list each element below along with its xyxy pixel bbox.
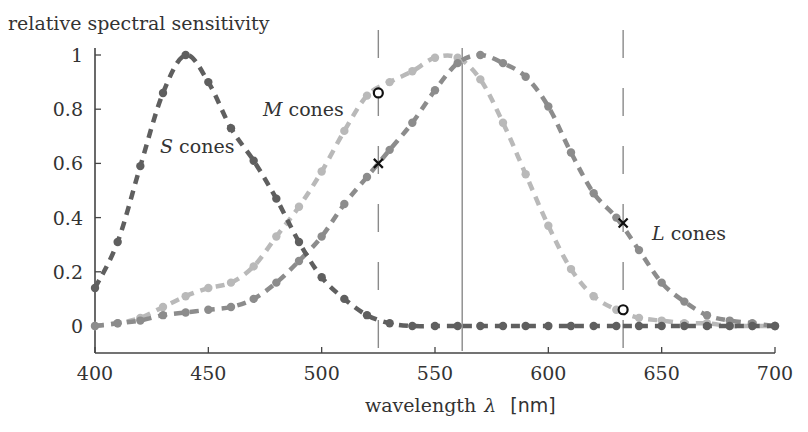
data-point xyxy=(295,238,303,246)
curve-line xyxy=(95,55,775,326)
x-tick-label: 500 xyxy=(304,362,340,384)
data-point xyxy=(635,322,643,330)
data-point xyxy=(408,67,416,75)
data-point xyxy=(680,297,688,305)
data-point xyxy=(340,127,348,135)
y-tick-label: 0.2 xyxy=(53,261,83,283)
x-tick-label: 650 xyxy=(644,362,680,384)
x-tick-label: 400 xyxy=(77,362,113,384)
data-point xyxy=(91,284,99,292)
data-point xyxy=(635,314,643,322)
data-point xyxy=(385,78,393,86)
chart-canvas: 00.20.40.60.81400450500550600650700 rela… xyxy=(0,0,808,432)
data-point xyxy=(725,322,733,330)
data-point xyxy=(204,78,212,86)
data-point xyxy=(567,265,575,273)
data-point xyxy=(431,54,439,62)
circle-marker xyxy=(374,88,383,97)
data-point xyxy=(476,75,484,83)
data-point xyxy=(544,322,552,330)
series-l-cones xyxy=(91,51,779,330)
data-point xyxy=(340,295,348,303)
data-point xyxy=(272,278,280,286)
data-point xyxy=(589,189,597,197)
x-axis-title-text: wavelength xyxy=(365,394,476,416)
data-point xyxy=(453,322,461,330)
data-point xyxy=(567,322,575,330)
data-point xyxy=(476,322,484,330)
x-axis-title: wavelengthλ[nm] xyxy=(365,394,556,416)
data-point xyxy=(612,322,620,330)
data-point xyxy=(295,203,303,211)
x-tick-label: 550 xyxy=(417,362,453,384)
data-point xyxy=(204,306,212,314)
data-point xyxy=(159,311,167,319)
x-tick-label: 600 xyxy=(530,362,566,384)
y-tick-label: 0.8 xyxy=(53,98,83,120)
data-point xyxy=(499,59,507,67)
data-point xyxy=(272,232,280,240)
data-point xyxy=(589,292,597,300)
data-point xyxy=(113,319,121,327)
data-point xyxy=(703,322,711,330)
data-point xyxy=(181,292,189,300)
data-point xyxy=(521,170,529,178)
y-tick-label: 0 xyxy=(71,315,83,337)
series-curves xyxy=(91,51,779,330)
data-point xyxy=(249,262,257,270)
data-point xyxy=(363,173,371,181)
data-point xyxy=(567,148,575,156)
data-point xyxy=(771,322,779,330)
data-point xyxy=(431,86,439,94)
spectral-sensitivity-chart: 00.20.40.60.81400450500550600650700 rela… xyxy=(0,0,808,432)
data-point xyxy=(317,273,325,281)
curve-line xyxy=(95,55,775,326)
data-point xyxy=(385,146,393,154)
data-point xyxy=(544,222,552,230)
data-point xyxy=(227,278,235,286)
x-tick-label: 700 xyxy=(757,362,793,384)
data-point xyxy=(499,119,507,127)
data-point xyxy=(499,322,507,330)
data-point xyxy=(385,319,393,327)
lambda-symbol: λ xyxy=(483,394,496,416)
data-point xyxy=(476,51,484,59)
x-axis-unit: [nm] xyxy=(510,394,555,416)
data-point xyxy=(431,322,439,330)
data-point xyxy=(136,316,144,324)
data-point xyxy=(657,322,665,330)
y-tick-label: 0.6 xyxy=(53,152,83,174)
data-point xyxy=(680,322,688,330)
data-point xyxy=(181,308,189,316)
y-axis-title: relative spectral sensitivity xyxy=(8,12,270,34)
data-point xyxy=(589,322,597,330)
y-tick-label: 0.4 xyxy=(53,207,83,229)
data-point xyxy=(317,232,325,240)
data-point xyxy=(657,278,665,286)
data-point xyxy=(136,162,144,170)
data-point xyxy=(363,91,371,99)
data-point xyxy=(544,102,552,110)
circle-marker xyxy=(619,305,628,314)
data-point xyxy=(204,284,212,292)
data-point xyxy=(249,295,257,303)
data-point xyxy=(340,200,348,208)
series-label-l-cones: L cones xyxy=(651,222,726,244)
data-point xyxy=(181,51,189,59)
data-point xyxy=(159,303,167,311)
data-point xyxy=(363,311,371,319)
data-point xyxy=(521,72,529,80)
data-point xyxy=(91,322,99,330)
data-point xyxy=(113,238,121,246)
data-point xyxy=(317,167,325,175)
data-point xyxy=(159,89,167,97)
y-tick-label: 1 xyxy=(71,44,83,66)
data-point xyxy=(227,124,235,132)
data-point xyxy=(408,322,416,330)
data-point xyxy=(227,303,235,311)
data-point xyxy=(249,156,257,164)
data-point xyxy=(272,194,280,202)
x-tick-label: 450 xyxy=(190,362,226,384)
curve-line xyxy=(95,55,775,326)
data-point xyxy=(453,59,461,67)
